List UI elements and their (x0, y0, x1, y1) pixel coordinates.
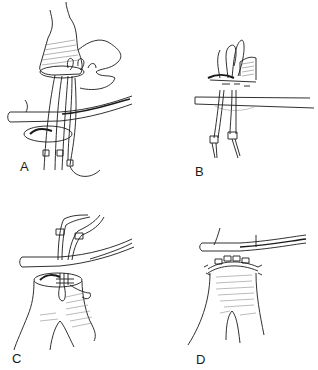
panel-b: B (160, 0, 318, 185)
panel-a-drawing (0, 0, 160, 185)
panel-c-drawing (0, 185, 160, 370)
panel-d: D (160, 185, 318, 370)
panel-label-b: B (195, 164, 204, 179)
panel-label-d: D (196, 352, 205, 367)
panel-label-a: A (20, 159, 29, 174)
panel-d-drawing (160, 185, 318, 370)
panel-c: C (0, 185, 160, 370)
panel-b-drawing (160, 0, 318, 185)
panel-label-c: C (12, 351, 21, 366)
panel-a: A (0, 0, 160, 185)
